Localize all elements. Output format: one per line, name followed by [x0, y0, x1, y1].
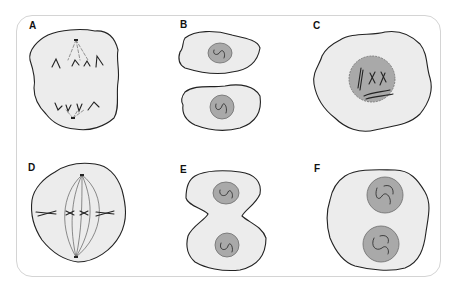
- nucleus-e-bottom: [215, 233, 239, 257]
- nucleus-f-bottom: [363, 226, 399, 262]
- nucleus-b-top: [208, 43, 232, 63]
- nucleus-e-top: [213, 182, 239, 204]
- mitosis-diagram: [0, 0, 462, 291]
- nucleus-f-top: [367, 177, 403, 213]
